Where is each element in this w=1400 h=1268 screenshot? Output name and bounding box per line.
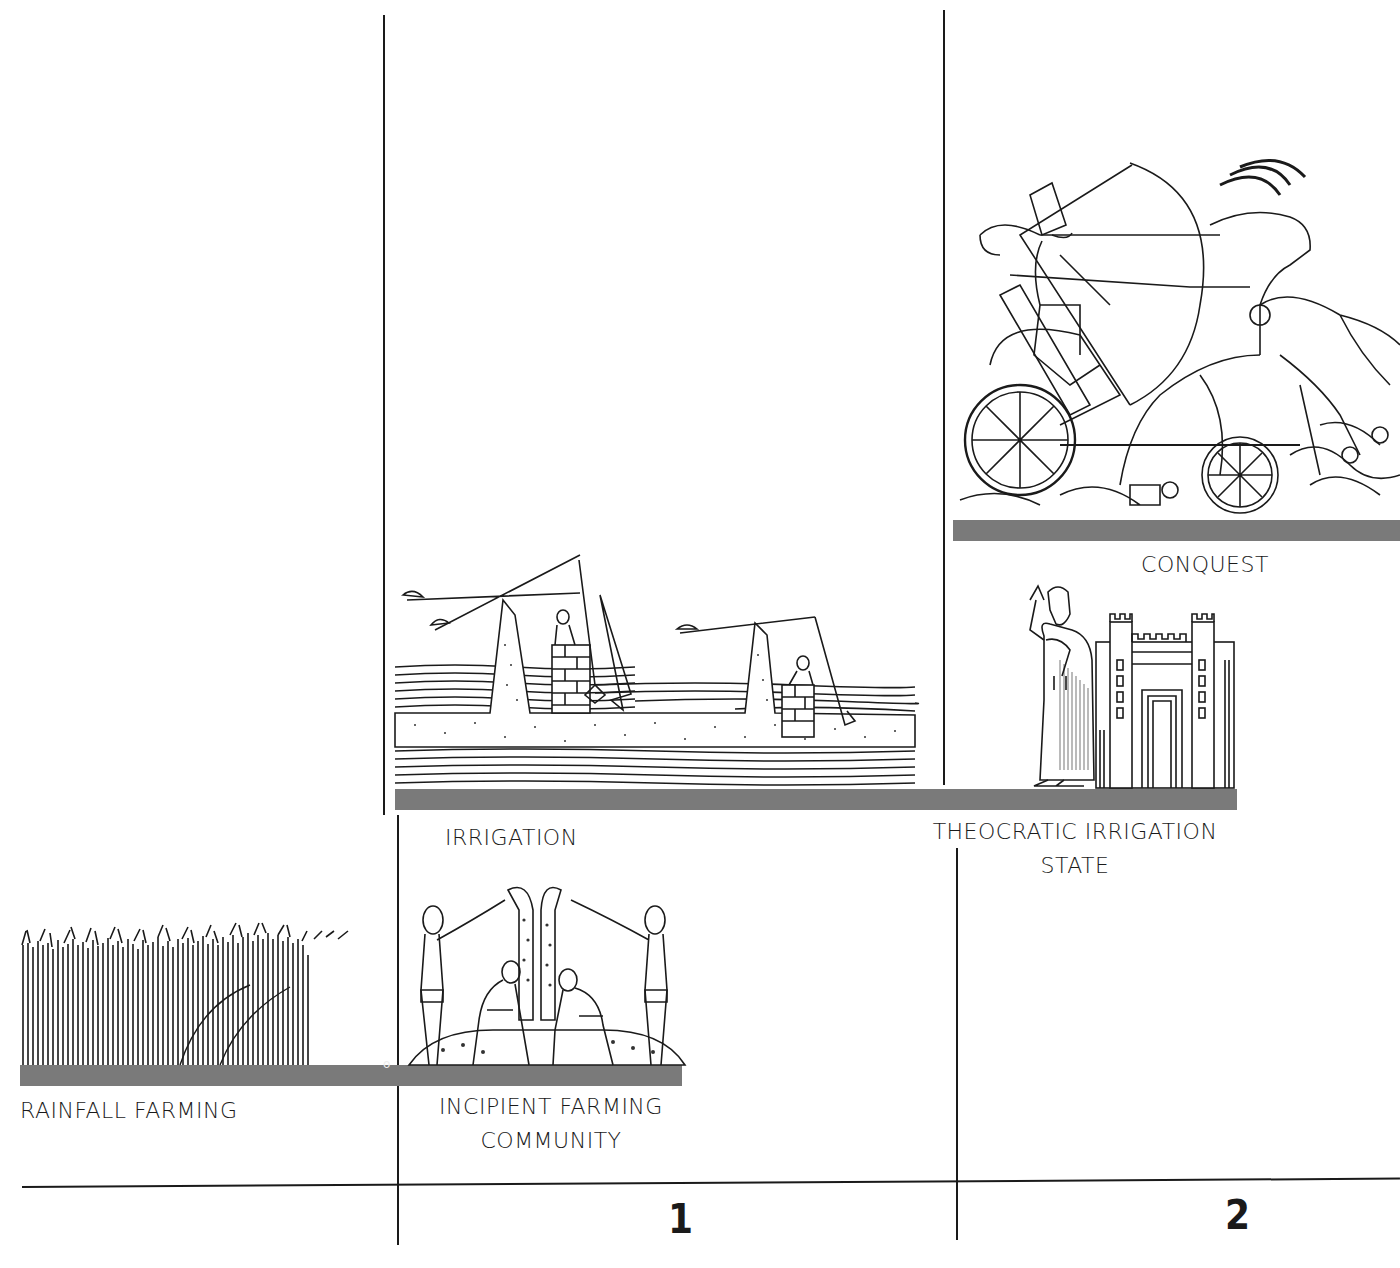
stage-label-rainfall: RAINFALL FARMING [20,1094,238,1128]
period-divider-1-upper [383,15,385,815]
stage-label-irrigation: IRRIGATION [445,821,578,855]
stage-bar-conquest [953,520,1400,541]
stage-label-incipient: INCIPIENT FARMING COMMUNITY [420,1090,682,1158]
stage-bar-rainfall-incipient [20,1065,682,1086]
figures-pouring-grain-illustration [403,880,688,1065]
period-divider-1-lower [397,815,399,1245]
wheat-field-illustration [20,925,355,1065]
stage-label-theocratic: THEOCRATIC IRRIGATION STATE [912,815,1238,883]
period-label-2: 2 [1225,1192,1250,1238]
shadoof-irrigation-illustration [395,555,915,789]
stage-label-conquest: CONQUEST [1100,548,1310,582]
conquest-chariot-illustration [960,155,1400,520]
time-axis [22,1178,1400,1188]
period-label-1: 1 [668,1196,693,1242]
theocratic-state-illustration [1000,580,1236,788]
origin-marker: o [383,1057,390,1071]
period-divider-2-upper [943,10,945,785]
stage-bar-irrigation-theocratic [395,789,1237,810]
